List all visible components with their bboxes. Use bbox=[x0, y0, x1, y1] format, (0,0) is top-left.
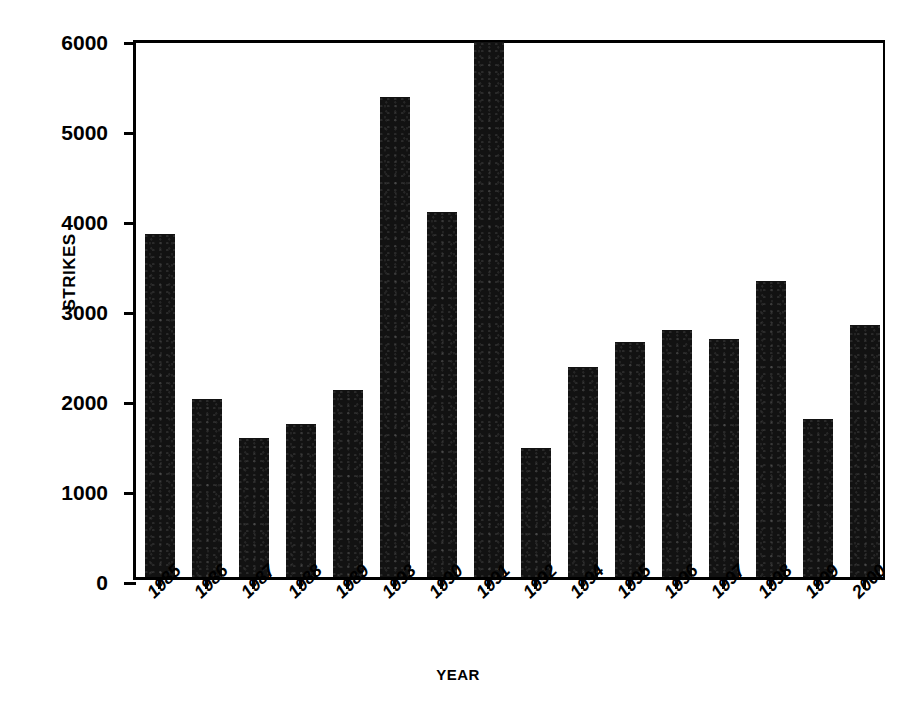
bar bbox=[568, 367, 598, 577]
bar bbox=[333, 390, 363, 577]
y-axis-tick: 6000 bbox=[124, 42, 136, 45]
y-axis-tick: 3000 bbox=[124, 312, 136, 315]
bar bbox=[803, 419, 833, 577]
bar bbox=[380, 97, 410, 577]
y-axis-tick-label: 4000 bbox=[61, 211, 108, 235]
bar bbox=[615, 342, 645, 577]
bar bbox=[662, 330, 692, 577]
y-axis-tick-label: 2000 bbox=[61, 391, 108, 415]
bar bbox=[145, 234, 175, 577]
x-axis-label: YEAR bbox=[0, 666, 916, 683]
bar-chart-figure: STRIKES 0100020003000400050006000 198519… bbox=[0, 0, 916, 704]
y-axis-tick-label: 6000 bbox=[61, 31, 108, 55]
y-axis-tick: 0 bbox=[124, 582, 136, 585]
bar bbox=[192, 399, 222, 577]
bar bbox=[850, 325, 880, 577]
bar bbox=[427, 212, 457, 577]
y-axis-tick-label: 5000 bbox=[61, 121, 108, 145]
y-axis-tick-label: 0 bbox=[96, 571, 108, 595]
bar bbox=[709, 339, 739, 578]
bar bbox=[239, 438, 269, 578]
y-axis-tick: 1000 bbox=[124, 492, 136, 495]
y-axis-tick: 2000 bbox=[124, 402, 136, 405]
bar bbox=[521, 448, 551, 577]
plot-area: 0100020003000400050006000 bbox=[133, 40, 885, 580]
y-axis-tick: 5000 bbox=[124, 132, 136, 135]
bar bbox=[286, 424, 316, 577]
y-axis-tick-label: 3000 bbox=[61, 301, 108, 325]
y-axis-tick: 4000 bbox=[124, 222, 136, 225]
y-axis-tick-label: 1000 bbox=[61, 481, 108, 505]
bar bbox=[474, 42, 504, 578]
bar bbox=[756, 281, 786, 577]
